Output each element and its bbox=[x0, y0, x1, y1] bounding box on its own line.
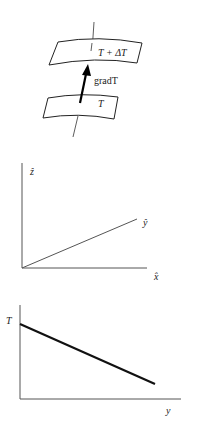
upper-surface bbox=[49, 39, 142, 65]
y-axis-label-bottom: y bbox=[165, 405, 171, 416]
arrow-head-icon bbox=[82, 64, 91, 76]
upper-surface-label: T + ΔT bbox=[98, 47, 128, 58]
y-axis-label: ŷ bbox=[142, 217, 148, 228]
temperature-profile-figure: T y bbox=[6, 305, 181, 416]
gradient-label: gradT bbox=[94, 75, 118, 86]
t-axis-label: T bbox=[6, 315, 13, 326]
temperature-line bbox=[20, 324, 155, 384]
coordinate-axes-figure: ẑ ŷ x̂ bbox=[22, 163, 159, 282]
normal-line-bottom bbox=[73, 116, 78, 137]
isotherm-figure: T + ΔT T gradT bbox=[43, 22, 142, 137]
z-axis-label: ẑ bbox=[29, 166, 34, 177]
diagram-canvas: T + ΔT T gradT ẑ ŷ x̂ T y bbox=[0, 0, 198, 425]
x-axis-label: x̂ bbox=[153, 271, 159, 282]
y-axis bbox=[22, 219, 137, 268]
